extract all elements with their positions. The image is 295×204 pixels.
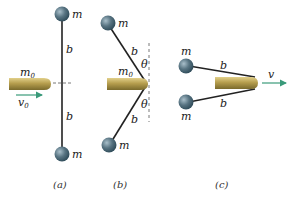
- sphere-bottom-a: [55, 147, 70, 162]
- rod-length-label: b: [66, 110, 73, 123]
- rod-length-label: b: [220, 97, 227, 110]
- rod-length-label: b: [131, 113, 138, 126]
- panel-c: m m b b v (c): [179, 45, 287, 190]
- mass-label: m: [118, 17, 128, 30]
- caption-b: (b): [113, 179, 127, 190]
- panel-a: m m b b m0 v0 (a): [9, 7, 82, 191]
- sphere-top-a: [55, 7, 70, 22]
- velocity-label: v0: [18, 96, 29, 110]
- rod-lower-b: [110, 84, 147, 144]
- sphere-bottom-c: [179, 95, 194, 110]
- bullet-mass-label: m0: [118, 65, 133, 79]
- sphere-top-c: [179, 59, 194, 74]
- bullet-b: [107, 78, 148, 90]
- mass-label: m: [72, 8, 82, 21]
- rod-length-label: b: [66, 43, 73, 56]
- sphere-bottom-b: [102, 138, 117, 153]
- sphere-top-b: [101, 16, 116, 31]
- rod-length-label: b: [220, 59, 227, 72]
- diagram-canvas: m m b b m0 v0 (a) m m b b θ θ m0 (b) m m…: [0, 0, 295, 204]
- bullet-c: [215, 77, 258, 89]
- panel-b: m m b b θ θ m0 (b): [101, 16, 150, 191]
- mass-label: m: [72, 148, 82, 161]
- angle-label: θ: [141, 58, 148, 71]
- mass-label: m: [119, 139, 129, 152]
- angle-label: θ: [141, 98, 148, 111]
- caption-a: (a): [53, 179, 67, 190]
- rod-length-label: b: [131, 45, 138, 58]
- caption-c: (c): [215, 179, 229, 190]
- velocity-label: v: [268, 68, 275, 81]
- bullet-mass-label: m0: [20, 66, 35, 80]
- mass-label: m: [181, 110, 191, 123]
- mass-label: m: [181, 45, 191, 58]
